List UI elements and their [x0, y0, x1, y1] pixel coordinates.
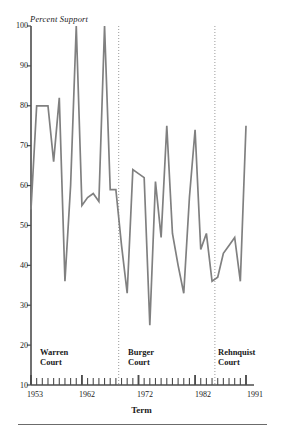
x-axis	[31, 375, 254, 385]
era-warren-line2: Court	[40, 357, 68, 367]
y-tick-label-70: 70	[8, 141, 28, 150]
x-tick-marks	[31, 375, 246, 385]
y-axis-title: Percent Support	[30, 14, 88, 24]
y-tick-label-10: 10	[8, 381, 28, 390]
footer-divider	[18, 424, 267, 425]
era-divider-lines	[119, 26, 215, 385]
y-tick-label-90: 90	[8, 61, 28, 70]
x-tick-label-1972: 1972	[128, 390, 162, 399]
y-tick-label-100: 100	[8, 21, 28, 30]
y-tick-label-30: 30	[8, 301, 28, 310]
x-tick-label-1991: 1991	[238, 390, 272, 399]
era-rehnquist-line2: Court	[218, 357, 255, 367]
y-tick-label-40: 40	[8, 261, 28, 270]
x-tick-label-1982: 1982	[186, 390, 220, 399]
x-axis-title: Term	[0, 405, 283, 415]
era-label-rehnquist: Rehnquist Court	[218, 347, 255, 367]
chart-figure: Percent Support 100 90 80 70 60 50 40 30…	[0, 0, 283, 435]
era-warren-line1: Warren	[40, 347, 68, 357]
era-burger-line1: Burger	[128, 347, 154, 357]
era-rehnquist-line1: Rehnquist	[218, 347, 255, 357]
x-tick-label-1953: 1953	[18, 390, 52, 399]
era-label-warren: Warren Court	[40, 347, 68, 367]
y-tick-label-20: 20	[8, 341, 28, 350]
data-series-line	[31, 26, 246, 325]
era-burger-line2: Court	[128, 357, 154, 367]
era-label-burger: Burger Court	[128, 347, 154, 367]
y-tick-label-80: 80	[8, 101, 28, 110]
y-tick-label-50: 50	[8, 221, 28, 230]
chart-plot-area	[0, 0, 283, 435]
y-tick-label-60: 60	[8, 181, 28, 190]
x-tick-label-1962: 1962	[70, 390, 104, 399]
